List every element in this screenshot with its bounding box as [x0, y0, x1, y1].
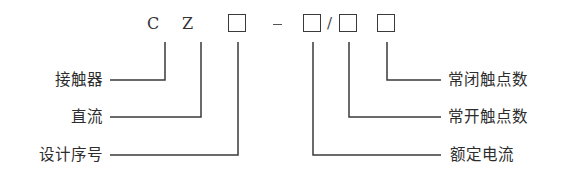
placeholder-box-design-serial: [228, 14, 246, 32]
line-design-serial: [110, 42, 238, 155]
code-slash: /: [327, 14, 332, 32]
code-letter-z: Z: [182, 15, 193, 33]
placeholder-box-no-contacts: [339, 14, 357, 32]
line-nc-contacts: [387, 42, 441, 80]
placeholder-box-rated-current: [303, 14, 321, 32]
label-no-contacts: 常开触点数: [448, 108, 528, 126]
label-rated-current: 额定电流: [450, 146, 514, 164]
line-rated-current: [313, 42, 441, 155]
code-letter-c: C: [147, 15, 159, 33]
placeholder-box-nc-contacts: [377, 14, 395, 32]
line-contactor: [110, 42, 165, 80]
code-dash: [273, 24, 282, 25]
label-dc: 直流: [45, 108, 103, 126]
label-design-serial: 设计序号: [20, 146, 103, 164]
label-contactor: 接触器: [45, 71, 103, 89]
label-nc-contacts: 常闭触点数: [448, 71, 528, 89]
